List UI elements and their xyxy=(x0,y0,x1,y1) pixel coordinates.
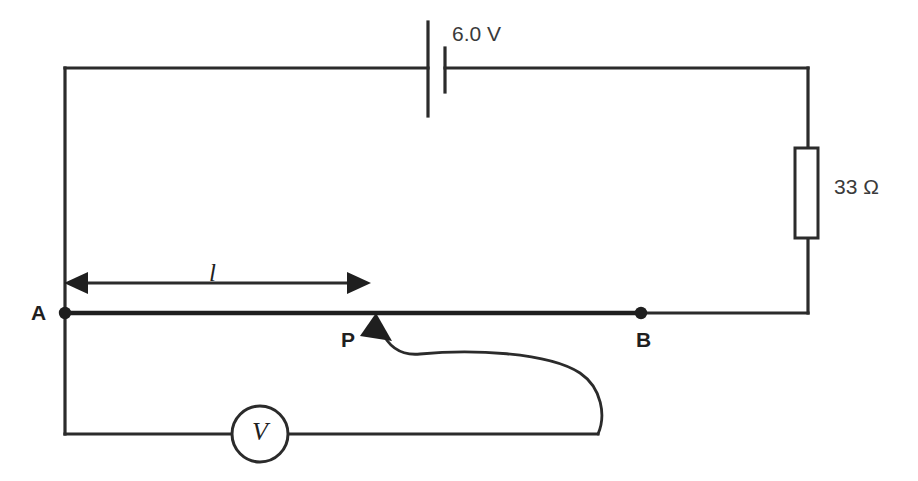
resistor-symbol xyxy=(795,148,818,238)
node-a-dot xyxy=(59,307,71,319)
sliding-contact-arrowhead xyxy=(360,313,392,341)
length-dimension-arrowhead-left xyxy=(64,272,88,294)
sliding-contact-lead xyxy=(360,313,602,434)
resistor-label: 33 Ω xyxy=(834,175,879,198)
flying-lead-curve xyxy=(381,330,602,434)
length-symbol-label: l xyxy=(209,259,216,286)
battery-symbol xyxy=(428,22,445,116)
node-p-label: P xyxy=(341,328,355,351)
length-dimension-annotation xyxy=(64,272,371,294)
node-b-dot xyxy=(635,307,647,319)
battery-label: 6.0 V xyxy=(452,22,501,45)
voltmeter-symbol: V xyxy=(232,406,288,462)
circuit-schematic-canvas: 6.0 V 33 Ω V A B P l xyxy=(0,0,918,481)
node-a-label: A xyxy=(31,301,46,324)
length-dimension-arrowhead-right xyxy=(347,272,371,294)
node-b-label: B xyxy=(636,328,651,351)
resistor-body xyxy=(795,148,818,238)
circuit-diagram: 6.0 V 33 Ω V A B P l xyxy=(0,0,918,481)
